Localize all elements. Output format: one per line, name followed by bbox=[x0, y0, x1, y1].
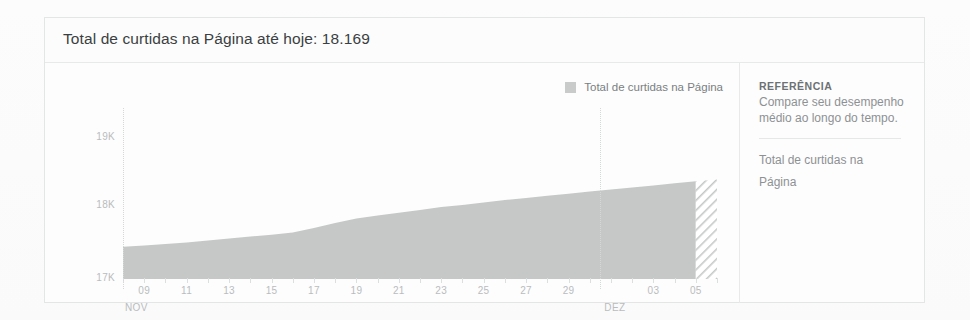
x-tick-label-19: 19 bbox=[351, 285, 363, 296]
y-axis: 19K 18K 17K bbox=[45, 63, 123, 303]
legend-swatch-icon bbox=[565, 82, 576, 93]
y-tick-label-19k: 19K bbox=[96, 131, 115, 142]
x-tick-label-15: 15 bbox=[266, 285, 278, 296]
x-axis-tick bbox=[165, 278, 166, 283]
x-axis-tick bbox=[250, 278, 251, 283]
x-axis-tick bbox=[356, 278, 357, 283]
insights-card: Total de curtidas na Página até hoje: 18… bbox=[44, 17, 925, 303]
legend-label: Total de curtidas na Página bbox=[584, 81, 723, 93]
x-axis-tick bbox=[675, 278, 676, 283]
x-axis-tick bbox=[611, 278, 612, 283]
x-axis-tick bbox=[420, 278, 421, 283]
x-axis-tick bbox=[208, 278, 209, 283]
page-title: Total de curtidas na Página até hoje: 18… bbox=[63, 30, 370, 48]
x-axis-tick bbox=[441, 278, 442, 283]
x-axis-tick bbox=[569, 278, 570, 283]
chart-legend[interactable]: Total de curtidas na Página bbox=[565, 81, 723, 93]
x-tick-label-09: 09 bbox=[138, 285, 150, 296]
month-label-nov: NOV bbox=[125, 302, 148, 313]
x-tick-label-25: 25 bbox=[478, 285, 490, 296]
x-axis-tick bbox=[187, 278, 188, 283]
partial-data-hatch bbox=[696, 180, 717, 279]
month-label-dez: DEZ bbox=[604, 302, 625, 313]
page-background: Total de curtidas na Página até hoje: 18… bbox=[0, 0, 970, 320]
x-axis-tick bbox=[399, 278, 400, 283]
sidebar-heading: REFERÊNCIA bbox=[759, 80, 909, 92]
x-axis-tick bbox=[526, 278, 527, 283]
x-axis-tick bbox=[505, 278, 506, 283]
y-tick-label-18k: 18K bbox=[96, 199, 115, 210]
area-chart-plot[interactable] bbox=[123, 109, 717, 279]
x-axis-tick bbox=[484, 278, 485, 283]
sidebar-divider bbox=[759, 138, 901, 139]
sidebar-description: Compare seu desempenho médio ao longo do… bbox=[759, 94, 909, 126]
x-axis-tick bbox=[696, 278, 697, 283]
x-tick-label-17: 17 bbox=[308, 285, 320, 296]
x-axis-tick bbox=[717, 278, 718, 283]
card-body: Total de curtidas na Página 19K 18K 17K bbox=[45, 63, 924, 303]
x-axis-tick bbox=[293, 278, 294, 283]
x-tick-label-11: 11 bbox=[181, 285, 192, 296]
x-tick-label-23: 23 bbox=[435, 285, 447, 296]
x-axis-tick bbox=[229, 278, 230, 283]
x-tick-label-21: 21 bbox=[393, 285, 405, 296]
x-axis-tick bbox=[272, 278, 273, 283]
reference-sidebar: REFERÊNCIA Compare seu desempenho médio … bbox=[741, 63, 924, 303]
card-header: Total de curtidas na Página até hoje: 18… bbox=[45, 18, 924, 63]
x-tick-label-05: 05 bbox=[690, 285, 702, 296]
x-tick-label-03: 03 bbox=[648, 285, 660, 296]
x-tick-label-27: 27 bbox=[520, 285, 532, 296]
chart-pane: Total de curtidas na Página 19K 18K 17K bbox=[45, 63, 740, 303]
x-axis-tick bbox=[653, 278, 654, 283]
x-axis-tick bbox=[378, 278, 379, 283]
x-axis-tick bbox=[335, 278, 336, 283]
month-separator-nov bbox=[123, 108, 124, 289]
y-tick-label-17k: 17K bbox=[96, 272, 115, 283]
x-tick-label-13: 13 bbox=[223, 285, 235, 296]
x-axis-tick bbox=[144, 278, 145, 283]
sidebar-item-total-likes-line2[interactable]: Página bbox=[759, 171, 909, 193]
x-axis-tick bbox=[632, 278, 633, 283]
x-axis-tick bbox=[547, 278, 548, 283]
x-axis-tick bbox=[314, 278, 315, 283]
x-axis-tick bbox=[462, 278, 463, 283]
x-tick-label-29: 29 bbox=[563, 285, 575, 296]
area-series-fill bbox=[123, 181, 696, 279]
x-axis-tick bbox=[590, 278, 591, 283]
month-separator-dez bbox=[600, 108, 601, 289]
area-chart-svg bbox=[123, 109, 717, 279]
sidebar-item-total-likes-line1[interactable]: Total de curtidas na bbox=[759, 149, 909, 171]
x-axis: 09111315171921232527290305 NOV DEZ bbox=[123, 278, 723, 303]
